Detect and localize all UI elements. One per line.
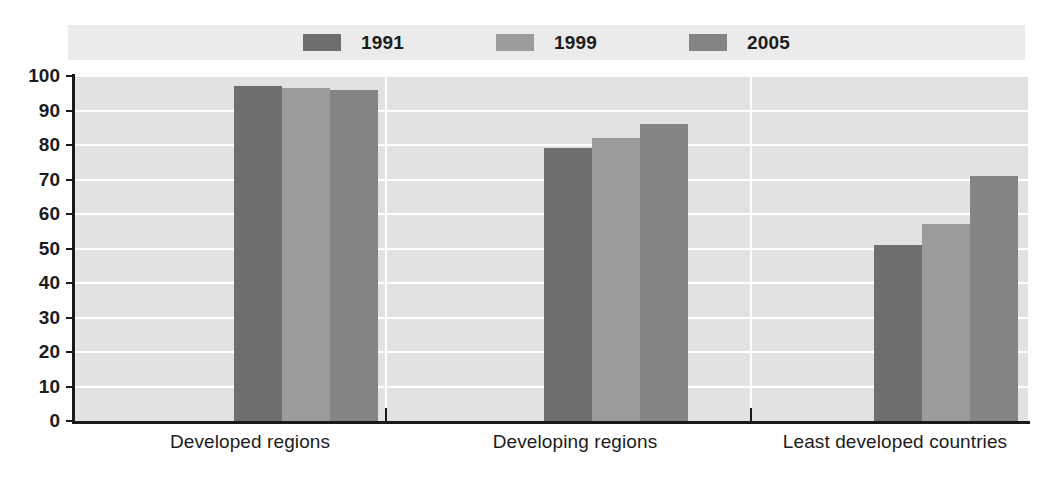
bar-1991-developed-regions [234, 86, 282, 421]
bar-2005-least-developed-countries [970, 176, 1018, 421]
category-label-least-developed-countries: Least developed countries [745, 432, 1045, 453]
x-axis-line [72, 421, 1030, 424]
group-divider [385, 76, 387, 421]
y-tick-label: 90 [14, 101, 60, 120]
y-tick-label: 30 [14, 308, 60, 327]
y-axis-line [72, 74, 75, 423]
y-tick-label: 60 [14, 204, 60, 223]
y-tick-label: 50 [14, 239, 60, 258]
gridline [74, 75, 1028, 77]
legend-swatch-2005 [689, 34, 727, 51]
legend-label-1999: 1999 [554, 33, 597, 52]
gridline [74, 110, 1028, 112]
bar-2005-developing-regions [640, 124, 688, 421]
y-tick-label: 40 [14, 273, 60, 292]
category-label-developing-regions: Developing regions [435, 432, 715, 453]
bar-1999-least-developed-countries [922, 224, 970, 421]
chart-legend: 1991 1999 2005 [68, 25, 1025, 60]
plot-area [74, 76, 1028, 421]
bar-1999-developed-regions [282, 88, 330, 421]
bar-1999-developing-regions [592, 138, 640, 421]
legend-item-1999: 1999 [496, 33, 597, 52]
legend-item-2005: 2005 [689, 33, 790, 52]
y-tick-label: 20 [14, 342, 60, 361]
y-tick-label: 0 [14, 411, 60, 430]
group-divider [750, 76, 752, 421]
legend-label-1991: 1991 [361, 33, 404, 52]
y-tick-label: 70 [14, 170, 60, 189]
legend-swatch-1991 [303, 34, 341, 51]
y-tick-label: 10 [14, 377, 60, 396]
bar-chart: 1991 1999 2005 1009080706050403020100 De… [0, 0, 1056, 482]
bar-1991-least-developed-countries [874, 245, 922, 421]
category-label-developed-regions: Developed regions [110, 432, 390, 453]
gridline [74, 144, 1028, 146]
legend-item-1991: 1991 [303, 33, 404, 52]
bar-1991-developing-regions [544, 148, 592, 421]
legend-swatch-1999 [496, 34, 534, 51]
legend-label-2005: 2005 [747, 33, 790, 52]
bar-2005-developed-regions [330, 90, 378, 421]
y-tick-label: 100 [14, 66, 60, 85]
y-tick-label: 80 [14, 135, 60, 154]
